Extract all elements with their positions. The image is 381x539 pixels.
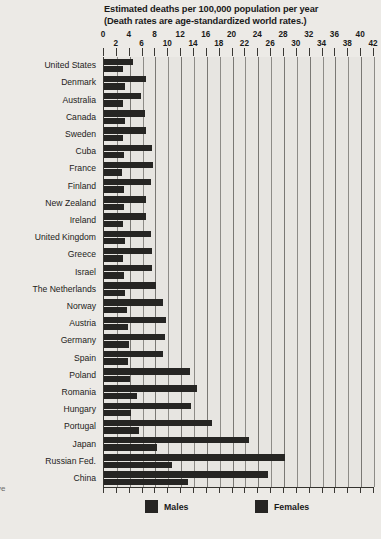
x-tickmark [373,48,374,56]
x-tickmark [154,48,155,56]
bar-row [104,367,374,385]
bar-row [104,315,374,333]
x-tick-label: 8 [146,30,162,39]
bar-male [104,403,191,409]
bar-male [104,127,146,133]
category-label: Israel [0,267,96,277]
bar-row [104,298,374,316]
x-tick-label: 2 [108,39,124,48]
bar-male [104,248,152,254]
bar-row [104,143,374,161]
bar-row [104,384,374,402]
x-tickmark [322,488,323,493]
x-tickmark [283,488,284,493]
category-label: Austria [0,318,96,328]
x-tickmark [257,488,258,493]
chart-legend: Males Females [103,500,374,524]
legend-item-males: Males [145,500,188,513]
x-tickmark [257,48,258,56]
x-tickmark [129,488,130,493]
bar-row [104,470,374,488]
bar-female [104,410,131,416]
bar-female [104,118,125,124]
x-tick-label: 20 [224,30,240,39]
bar-female [104,376,130,382]
category-label: Canada [0,112,96,122]
bar-female [104,307,127,313]
x-tick-label: 14 [185,39,201,48]
x-tick-label: 6 [134,39,150,48]
x-tickmark [309,488,310,493]
x-tick-label: 24 [249,30,265,39]
bar-row [104,349,374,367]
chart-title-line2: (Death rates are age-standardized world … [104,16,372,28]
x-tickmark [167,48,168,56]
bar-male [104,317,166,323]
bar-female [104,100,123,106]
bar-male [104,351,163,357]
bar-male [104,299,163,305]
x-tick-label: 36 [326,30,342,39]
x-tickmark [129,48,130,56]
bar-male [104,59,133,65]
bar-male [104,454,285,460]
bar-male [104,179,151,185]
bar-row [104,177,374,195]
bar-row [104,57,374,75]
x-tick-label: 26 [262,39,278,48]
category-label: Japan [0,439,96,449]
bar-male [104,213,146,219]
x-tick-label: 22 [236,39,252,48]
bar-female [104,221,123,227]
x-tickmark [322,48,323,56]
bar-female [104,66,123,72]
legend-item-females: Females [255,500,309,513]
category-label: France [0,163,96,173]
category-label: Sweden [0,129,96,139]
x-tick-label: 38 [339,39,355,48]
bar-female [104,272,124,278]
bar-female [104,186,124,192]
x-tick-label: 0 [95,30,111,39]
x-tickmark [219,48,220,56]
bar-row [104,229,374,247]
x-tickmark [180,48,181,56]
x-tick-label: 32 [301,30,317,39]
x-tickmark [142,48,143,56]
bar-male [104,334,165,340]
bar-male [104,282,156,288]
bar-male [104,76,146,82]
legend-swatch-females-icon [255,500,268,513]
bar-row [104,91,374,109]
x-tick-label: 12 [172,30,188,39]
bar-female [104,358,128,364]
x-tickmark [270,488,271,493]
bar-male [104,368,190,374]
bar-row [104,332,374,350]
bar-row [104,401,374,419]
bar-row [104,109,374,127]
bar-female [104,341,129,347]
category-label: Finland [0,181,96,191]
category-label: Russian Fed. [0,456,96,466]
bar-male [104,437,249,443]
category-label: Denmark [0,77,96,87]
bar-row [104,126,374,144]
bar-male [104,145,152,151]
x-tickmark [244,488,245,493]
x-tickmark [334,488,335,493]
category-label: Romania [0,387,96,397]
bar-male [104,265,152,271]
category-label: China [0,473,96,483]
bar-female [104,204,124,210]
legend-label-males: Males [164,502,188,512]
x-tickmark [296,488,297,493]
x-axis-tickmarks-top [103,48,375,57]
bar-male [104,385,197,391]
x-tickmark [360,48,361,56]
x-tickmark [232,48,233,56]
bar-row [104,74,374,92]
x-tickmark [232,488,233,493]
bar-male [104,196,146,202]
bar-row [104,435,374,453]
